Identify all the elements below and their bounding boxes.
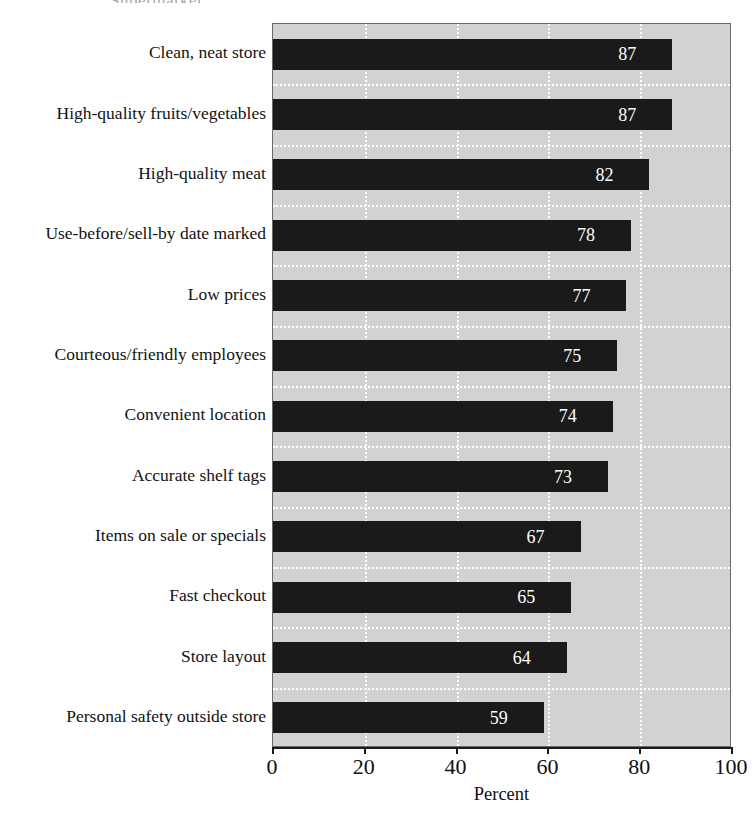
bar: 87 — [273, 39, 672, 70]
x-tick-label: 0 — [267, 756, 278, 778]
bar: 75 — [273, 340, 617, 371]
bar-value-label: 59 — [490, 709, 508, 727]
category-label: Store layout — [0, 648, 266, 666]
category-label: Courteous/friendly employees — [0, 346, 266, 364]
bar-value-label: 82 — [595, 166, 613, 184]
x-tick-label: 80 — [628, 756, 650, 778]
category-label: Low prices — [0, 286, 266, 304]
category-label: High-quality fruits/vegetables — [0, 105, 266, 123]
bar-value-label: 65 — [517, 588, 535, 606]
x-axis-title: Percent — [272, 785, 731, 804]
horizontal-gridline — [273, 567, 730, 569]
x-tick-mark — [639, 747, 641, 754]
x-tick-label: 20 — [353, 756, 375, 778]
category-axis-labels: Clean, neat storeHigh-quality fruits/veg… — [0, 23, 266, 747]
horizontal-gridline — [273, 326, 730, 328]
x-tick-label: 40 — [445, 756, 467, 778]
horizontal-gridline — [273, 84, 730, 86]
category-label: Fast checkout — [0, 587, 266, 605]
bar-value-label: 64 — [513, 649, 531, 667]
bar: 74 — [273, 401, 613, 432]
category-label: Items on sale or specials — [0, 527, 266, 545]
horizontal-gridline — [273, 145, 730, 147]
plot-area: 878782787775747367656459 — [272, 23, 731, 747]
bar-value-label: 78 — [577, 226, 595, 244]
bar: 59 — [273, 702, 544, 733]
bar: 64 — [273, 642, 567, 673]
bar-value-label: 67 — [527, 528, 545, 546]
bar: 65 — [273, 582, 571, 613]
x-tick-mark — [731, 747, 733, 754]
category-label: Use-before/sell-by date marked — [0, 225, 266, 243]
x-tick-mark — [547, 747, 549, 754]
bar-value-label: 87 — [618, 45, 636, 63]
category-label: High-quality meat — [0, 165, 266, 183]
horizontal-gridline — [273, 627, 730, 629]
vertical-gridline — [457, 24, 459, 746]
category-label: Accurate shelf tags — [0, 467, 266, 485]
x-tick-mark — [364, 747, 366, 754]
bar-value-label: 74 — [559, 407, 577, 425]
x-tick-label: 60 — [536, 756, 558, 778]
cropped-title-remnant: Supermarket — [110, 0, 230, 3]
bar-value-label: 87 — [618, 106, 636, 124]
horizontal-gridline — [273, 688, 730, 690]
x-tick-label: 100 — [715, 756, 748, 778]
bar: 77 — [273, 280, 626, 311]
x-tick-mark — [456, 747, 458, 754]
x-tick-mark — [272, 747, 274, 754]
bar-value-label: 73 — [554, 468, 572, 486]
bar: 82 — [273, 159, 649, 190]
vertical-gridline — [640, 24, 642, 746]
horizontal-gridline — [273, 507, 730, 509]
bar: 73 — [273, 461, 608, 492]
category-label: Personal safety outside store — [0, 708, 266, 726]
bar: 78 — [273, 220, 631, 251]
horizontal-gridline — [273, 446, 730, 448]
horizontal-gridline — [273, 265, 730, 267]
bar: 87 — [273, 99, 672, 130]
vertical-gridline — [548, 24, 550, 746]
bar-value-label: 77 — [572, 287, 590, 305]
category-label: Convenient location — [0, 406, 266, 424]
vertical-gridline — [365, 24, 367, 746]
x-axis-line — [272, 747, 731, 749]
bar: 67 — [273, 521, 581, 552]
bar-value-label: 75 — [563, 347, 581, 365]
category-label: Clean, neat store — [0, 44, 266, 62]
bar-chart-figure: Supermarket Clean, neat storeHigh-qualit… — [0, 0, 755, 817]
horizontal-gridline — [273, 205, 730, 207]
horizontal-gridline — [273, 386, 730, 388]
